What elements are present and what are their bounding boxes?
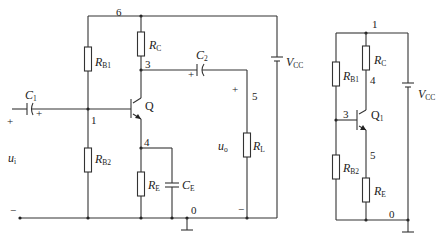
node-0-label: 0 xyxy=(191,204,197,216)
resistor-re xyxy=(138,172,145,196)
output-plus: + xyxy=(232,83,238,95)
dc-node-0-label: 0 xyxy=(389,208,395,220)
dc-node-1-label: 1 xyxy=(372,18,378,30)
node-4-label: 4 xyxy=(144,136,150,148)
output-minus: − xyxy=(238,203,244,215)
rb2-label: RB2 xyxy=(94,152,111,167)
re-label: RE xyxy=(147,178,160,193)
vcc-label: VCC xyxy=(286,55,303,70)
dc-vcc-label: VCC xyxy=(418,87,435,102)
dc-resistor-rb1 xyxy=(333,62,340,86)
resistor-rb1 xyxy=(85,47,92,71)
c1-plus: + xyxy=(36,107,42,119)
circuit-diagram: 6 RB1 RC 3 C2 + VCC + 5 C1 + Q + 1 4 ui … xyxy=(0,0,442,241)
input-minus: − xyxy=(10,204,16,216)
dc-node-4-label: 4 xyxy=(370,74,376,86)
resistor-rl xyxy=(244,133,251,157)
c2-label: C2 xyxy=(196,48,208,63)
dc-resistor-re xyxy=(363,178,370,202)
resistor-rb2 xyxy=(85,148,92,172)
node-6-label: 6 xyxy=(116,6,122,18)
left-circuit: 6 RB1 RC 3 C2 + VCC + 5 C1 + Q + 1 4 ui … xyxy=(7,6,303,230)
right-circuit: 1 RB1 RC 4 VCC 3 Q1 5 RB2 RE 0 xyxy=(333,18,436,232)
dc-resistor-rc xyxy=(363,46,370,70)
dc-q1-label: Q1 xyxy=(371,108,384,123)
node-3-label: 3 xyxy=(145,58,151,70)
dc-rb1-label: RB1 xyxy=(342,69,359,84)
dc-resistor-rb2 xyxy=(333,155,340,179)
dc-rc-label: RC xyxy=(373,53,386,68)
resistor-rc xyxy=(138,32,145,56)
rb1-label: RB1 xyxy=(94,55,111,70)
c1-label: C1 xyxy=(25,88,37,103)
node-5-label: 5 xyxy=(252,90,258,102)
ui-label: ui xyxy=(8,151,16,166)
dc-node-5-label: 5 xyxy=(370,149,376,161)
q-label: Q xyxy=(145,99,154,113)
input-plus: + xyxy=(7,115,13,127)
dc-re-label: RE xyxy=(373,184,386,199)
uo-label: uo xyxy=(218,139,228,154)
dc-node-3-label: 3 xyxy=(343,108,349,120)
rl-label: RL xyxy=(252,139,265,154)
c2-plus: + xyxy=(188,68,194,80)
rc-label: RC xyxy=(148,38,161,53)
ce-label: CE xyxy=(182,178,195,193)
dc-rb2-label: RB2 xyxy=(342,161,359,176)
node-1-label: 1 xyxy=(91,114,97,126)
